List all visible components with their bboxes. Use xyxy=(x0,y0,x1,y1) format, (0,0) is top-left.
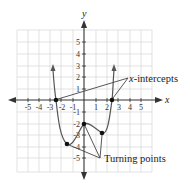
y-tick-label: 2 xyxy=(76,73,80,82)
x-intercept-point xyxy=(54,98,59,103)
x-intercepts-suffix: -intercepts xyxy=(134,73,178,84)
y-tick-label: 3 xyxy=(76,62,80,71)
y-tick-label: -2 xyxy=(73,120,80,129)
y-axis-label: y xyxy=(81,8,87,19)
y-tick-label: -5 xyxy=(73,154,80,163)
x-tick-label: -3 xyxy=(47,103,54,112)
x-tick-label: 2 xyxy=(105,103,109,112)
turning-point xyxy=(65,142,70,147)
y-axis-up-arrow-icon xyxy=(81,20,87,28)
x-axis-left-arrow-icon xyxy=(8,97,16,103)
x-tick-label: -2 xyxy=(59,103,66,112)
x-tick-label: 5 xyxy=(139,103,143,112)
polynomial-graph: -5 -4 -3 -2 -1 1 2 3 4 5 5 4 3 2 1 -1 -2… xyxy=(0,0,190,192)
x-intercepts-annotation: x-intercepts xyxy=(128,73,178,84)
x-axis-label: x xyxy=(164,94,170,105)
x-tick-label: 3 xyxy=(117,103,121,112)
turning-point xyxy=(100,131,105,136)
x-axis-right-arrow-icon xyxy=(155,97,163,103)
x-intercept-point xyxy=(110,98,115,103)
x-tick-label: -4 xyxy=(36,103,43,112)
x-tick-label: 1 xyxy=(94,103,98,112)
x-intercepts-pointers xyxy=(58,78,128,99)
turning-point xyxy=(82,122,87,127)
y-tick-label: -1 xyxy=(73,108,80,117)
curve-right-arrow-icon xyxy=(112,64,117,71)
y-tick-label: 5 xyxy=(76,38,80,47)
y-axis-down-arrow-icon xyxy=(81,172,87,180)
curve-left-arrow-icon xyxy=(51,64,56,71)
turning-points-annotation: Turning points xyxy=(104,153,166,164)
y-tick-label: 4 xyxy=(76,50,80,59)
x-tick-label: -5 xyxy=(25,103,32,112)
x-tick-label: 4 xyxy=(128,103,132,112)
